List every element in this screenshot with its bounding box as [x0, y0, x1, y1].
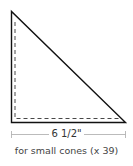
- triangle-outline: [12, 12, 126, 123]
- seam-allowance-dashed: [15, 22, 119, 119]
- triangle-diagram: [0, 0, 133, 166]
- dimension-label: 6 1/2": [49, 128, 83, 139]
- dimension-label-wrap: 6 1/2": [0, 128, 133, 140]
- caption: for small cones (x 39): [0, 145, 133, 157]
